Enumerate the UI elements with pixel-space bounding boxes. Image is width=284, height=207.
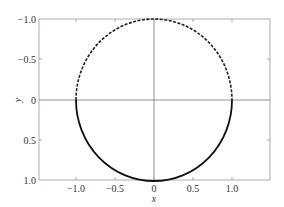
y-tick: 1.0 <box>24 175 37 186</box>
x-tick: −0.5 <box>106 183 124 194</box>
x-tick: 1.0 <box>226 183 239 194</box>
y-tick: −1.0 <box>18 14 36 25</box>
x-tick: 0.5 <box>187 183 200 194</box>
y-tick: 0.5 <box>24 135 37 146</box>
y-tick: 0 <box>31 95 36 106</box>
x-tick: −1.0 <box>67 183 85 194</box>
plot-frame <box>39 19 270 180</box>
circle-chart: −1.0 −0.5 0 0.5 1.0 −1.0 −0.5 0 0.5 1.0 … <box>0 0 284 207</box>
x-axis-label: x <box>151 193 157 204</box>
y-axis-label: y <box>12 97 23 103</box>
ticks <box>39 19 270 180</box>
y-tick: −0.5 <box>18 54 36 65</box>
